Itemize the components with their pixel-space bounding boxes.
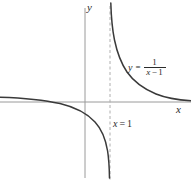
y-axis-label: y [87, 2, 92, 13]
equation-fraction: 1 x−1 [144, 58, 166, 78]
x-axis-label: x [176, 104, 181, 115]
asymptote-label-equals: = [117, 118, 127, 129]
equation-lhs: y [128, 63, 132, 73]
equation-numerator: 1 [150, 58, 159, 67]
equation-label: y = 1 x−1 [128, 58, 166, 78]
asymptote-label: x=1 [113, 119, 132, 129]
function-graph [0, 0, 191, 183]
curve-right-branch [111, 3, 191, 101]
equation-denominator-constant: 1 [158, 67, 163, 77]
equation-equals-sign: = [134, 63, 141, 72]
asymptote-label-value: 1 [127, 118, 132, 129]
equation-denominator: x−1 [144, 68, 165, 77]
curve-left-branch [0, 97, 110, 178]
